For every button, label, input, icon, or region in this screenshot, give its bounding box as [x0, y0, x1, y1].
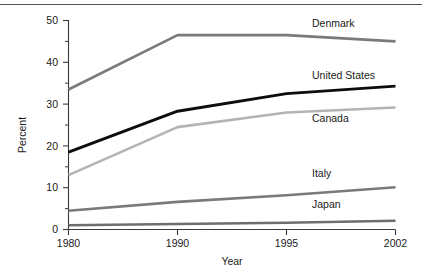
y-tick-label-30: 30: [46, 98, 58, 110]
y-tick-label-0: 0: [52, 223, 58, 235]
series-label-italy: Italy: [312, 167, 332, 179]
chart-figure: 0 10 20 30 40 50 1980 1990 1995 2002 Yea…: [0, 0, 422, 269]
x-tick-label-1995: 1995: [275, 237, 299, 249]
x-axis-ticks: [69, 230, 396, 236]
series-line-italy: [69, 187, 396, 210]
x-tick-label-1980: 1980: [57, 237, 81, 249]
series-lines-group: [69, 35, 396, 225]
series-line-japan: [69, 221, 396, 226]
y-axis-title: Percent: [16, 117, 28, 153]
y-tick-label-50: 50: [46, 14, 58, 26]
series-label-denmark: Denmark: [312, 17, 355, 29]
y-tick-label-20: 20: [46, 140, 58, 152]
x-tick-label-1990: 1990: [166, 237, 190, 249]
x-tick-label-2002: 2002: [384, 237, 408, 249]
y-tick-label-40: 40: [46, 56, 58, 68]
series-label-japan: Japan: [312, 198, 341, 210]
series-label-canada: Canada: [312, 112, 349, 124]
line-chart-canvas: 0 10 20 30 40 50 1980 1990 1995 2002 Yea…: [0, 0, 422, 269]
y-tick-label-10: 10: [46, 181, 58, 193]
series-line-denmark: [69, 35, 396, 89]
series-label-united-states: United States: [312, 69, 375, 81]
x-axis-title: Year: [221, 255, 243, 267]
